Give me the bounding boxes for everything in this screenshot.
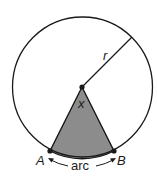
arc-arrow-right — [96, 160, 113, 166]
angle-label: x — [77, 96, 85, 111]
center-point — [79, 84, 84, 89]
point-b-label: B — [117, 153, 126, 168]
arrowhead-left-icon — [48, 158, 54, 163]
point-a-dot — [47, 148, 52, 153]
point-a-label: A — [35, 153, 45, 168]
point-b-dot — [111, 148, 116, 153]
arc-label: arc — [71, 158, 90, 173]
circle-sector-diagram: r x A B arc — [0, 0, 157, 178]
arc-arrow-left — [51, 160, 68, 166]
radius-label: r — [103, 48, 108, 63]
arrowhead-right-icon — [110, 158, 116, 163]
